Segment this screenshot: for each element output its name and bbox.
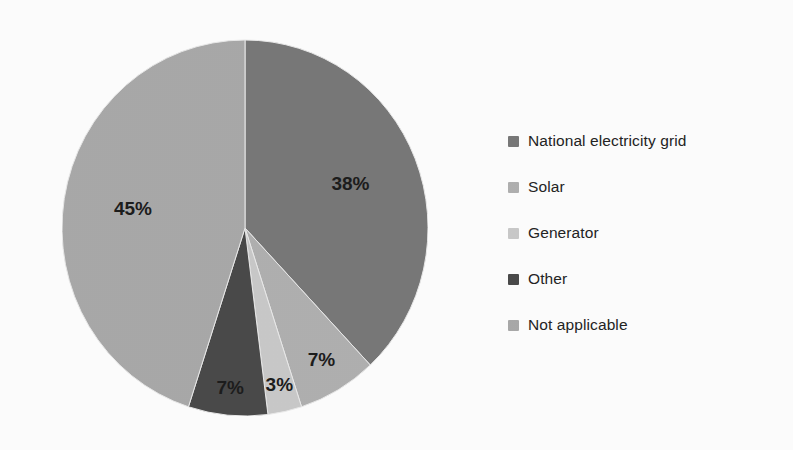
pie-data-label: 7%	[308, 349, 336, 370]
legend-swatch-icon	[508, 320, 519, 331]
legend-item-label: Solar	[528, 178, 565, 196]
legend-item-label: National electricity grid	[528, 132, 686, 150]
pie-data-label: 7%	[216, 377, 244, 398]
pie-data-label: 3%	[266, 374, 294, 395]
legend-item-label: Generator	[528, 224, 599, 242]
chart-legend: National electricity gridSolarGeneratorO…	[508, 118, 758, 348]
legend-item[interactable]: Not applicable	[508, 302, 758, 348]
legend-swatch-icon	[508, 182, 519, 193]
legend-swatch-icon	[508, 136, 519, 147]
legend-item[interactable]: Generator	[508, 210, 758, 256]
legend-item[interactable]: Solar	[508, 164, 758, 210]
legend-item[interactable]: Other	[508, 256, 758, 302]
pie-chart-svg: 38%7%3%7%45%	[62, 32, 428, 416]
legend-swatch-icon	[508, 274, 519, 285]
pie-chart: 38%7%3%7%45%	[62, 32, 428, 416]
pie-data-label: 45%	[114, 198, 152, 219]
pie-data-label: 38%	[331, 173, 369, 194]
legend-item-label: Other	[528, 270, 567, 288]
legend-item-label: Not applicable	[528, 316, 628, 334]
legend-item[interactable]: National electricity grid	[508, 118, 758, 164]
chart-page: 38%7%3%7%45% National electricity gridSo…	[0, 0, 793, 450]
legend-swatch-icon	[508, 228, 519, 239]
pie-slice-group	[62, 40, 428, 416]
